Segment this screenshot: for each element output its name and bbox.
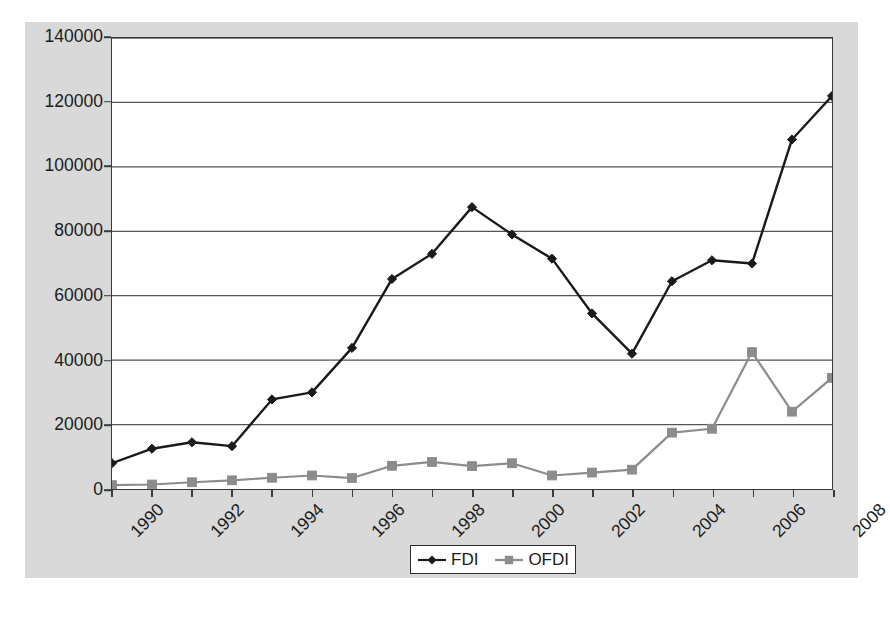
x-axis-tick-label: 1996 bbox=[368, 501, 408, 541]
legend-entry-ofdi[interactable]: OFDI bbox=[494, 551, 569, 568]
chart-legend: FDIOFDI bbox=[410, 545, 576, 574]
y-axis-tick-label: 100000 bbox=[45, 158, 103, 176]
data-point-fdi bbox=[667, 277, 676, 286]
data-point-ofdi bbox=[508, 459, 517, 468]
x-axis-tick-mark bbox=[793, 490, 795, 497]
data-point-ofdi bbox=[268, 473, 277, 482]
data-point-ofdi bbox=[308, 471, 317, 480]
chart-figure: 020000400006000080000100000120000140000 … bbox=[0, 0, 890, 618]
series-canvas bbox=[112, 38, 832, 489]
legend-label: FDI bbox=[451, 551, 478, 568]
x-axis-tick-mark bbox=[753, 490, 755, 497]
x-axis-tick-label: 2006 bbox=[769, 501, 809, 541]
data-point-ofdi bbox=[112, 481, 116, 489]
y-axis-tick-mark bbox=[104, 295, 111, 297]
x-axis-tick-mark bbox=[231, 490, 233, 497]
x-axis-tick-label: 2008 bbox=[850, 501, 890, 541]
y-axis-tick-marks bbox=[103, 37, 111, 490]
data-point-fdi bbox=[147, 444, 156, 453]
y-axis-tick-label: 140000 bbox=[45, 28, 103, 46]
y-axis-tick-mark bbox=[104, 101, 111, 103]
data-point-ofdi bbox=[748, 348, 757, 357]
chart-panel: 020000400006000080000100000120000140000 … bbox=[25, 22, 858, 578]
data-point-ofdi bbox=[828, 373, 832, 382]
data-point-ofdi bbox=[468, 462, 477, 471]
x-axis-tick-mark bbox=[271, 490, 273, 497]
x-axis-tick-mark bbox=[673, 490, 675, 497]
x-axis-tick-mark bbox=[472, 490, 474, 497]
y-axis-tick-label: 120000 bbox=[45, 93, 103, 111]
y-axis-tick-label: 60000 bbox=[54, 287, 103, 305]
data-point-fdi bbox=[187, 438, 196, 447]
y-axis-tick-mark bbox=[104, 36, 111, 38]
x-axis-tick-mark bbox=[432, 490, 434, 497]
series-line-fdi bbox=[112, 96, 832, 463]
x-axis-tick-mark bbox=[191, 490, 193, 497]
x-axis-tick-label: 1994 bbox=[288, 501, 328, 541]
x-axis-tick-mark bbox=[632, 490, 634, 497]
legend-label: OFDI bbox=[528, 551, 569, 568]
x-axis-tick-label: 2002 bbox=[609, 501, 649, 541]
y-axis-tick-mark bbox=[104, 166, 111, 168]
y-axis-tick-mark bbox=[104, 489, 111, 491]
y-axis-tick-label: 0 bbox=[93, 481, 103, 499]
x-axis-tick-mark bbox=[592, 490, 594, 497]
data-point-ofdi bbox=[428, 458, 437, 467]
data-point-ofdi bbox=[788, 407, 797, 416]
x-axis-tick-mark bbox=[512, 490, 514, 497]
y-axis-tick-label: 80000 bbox=[54, 222, 103, 240]
x-axis-tick-mark bbox=[352, 490, 354, 497]
x-axis-tick-mark bbox=[713, 490, 715, 497]
x-axis-tick-mark bbox=[552, 490, 554, 497]
x-axis-tick-mark bbox=[111, 490, 113, 497]
x-axis-tick-label: 1990 bbox=[128, 501, 168, 541]
data-point-ofdi bbox=[148, 480, 157, 489]
data-point-ofdi bbox=[388, 461, 397, 470]
data-point-ofdi bbox=[708, 424, 717, 433]
diamond-marker-icon bbox=[417, 553, 447, 567]
data-point-ofdi bbox=[228, 476, 237, 485]
data-point-ofdi bbox=[548, 471, 557, 480]
x-axis-tick-mark bbox=[833, 490, 835, 497]
square-marker-icon bbox=[494, 553, 524, 567]
x-axis-tick-mark bbox=[392, 490, 394, 497]
x-axis-tick-label: 2004 bbox=[689, 501, 729, 541]
y-axis-tick-label: 40000 bbox=[54, 352, 103, 370]
data-point-ofdi bbox=[588, 468, 597, 477]
data-point-ofdi bbox=[188, 478, 197, 487]
data-point-ofdi bbox=[668, 428, 677, 437]
x-axis-tick-label: 1998 bbox=[448, 501, 488, 541]
y-axis-tick-label: 20000 bbox=[54, 417, 103, 435]
data-point-fdi bbox=[112, 459, 117, 468]
x-axis-tick-label: 1992 bbox=[208, 501, 248, 541]
y-axis-tick-mark bbox=[104, 424, 111, 426]
data-point-ofdi bbox=[628, 465, 637, 474]
x-axis-tick-mark bbox=[312, 490, 314, 497]
y-axis-labels: 020000400006000080000100000120000140000 bbox=[25, 37, 103, 490]
y-axis-tick-mark bbox=[104, 360, 111, 362]
y-axis-tick-mark bbox=[104, 230, 111, 232]
x-axis-tick-marks bbox=[111, 490, 833, 498]
x-axis-tick-label: 2000 bbox=[529, 501, 569, 541]
plot-area bbox=[111, 37, 833, 490]
x-axis-tick-mark bbox=[151, 490, 153, 497]
data-point-fdi bbox=[707, 256, 716, 265]
data-point-ofdi bbox=[348, 474, 357, 483]
data-point-fdi bbox=[747, 259, 756, 268]
legend-entry-fdi[interactable]: FDI bbox=[417, 551, 478, 568]
